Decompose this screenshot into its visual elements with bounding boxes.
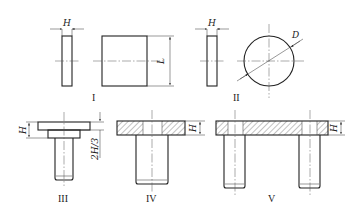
dim-h-label-iii: H (18, 126, 28, 135)
dim-h-label-v: H (329, 124, 339, 133)
view-iii: H 2H/3 III (18, 112, 104, 204)
view-label-iv: IV (146, 193, 157, 204)
view-label-v: V (268, 193, 276, 204)
view-label-iii: III (58, 193, 68, 204)
dim-h-label-iv: H (188, 124, 198, 133)
dim-h-label-ii: H (207, 18, 216, 28)
view-label-i: I (92, 92, 95, 103)
dim-2h3-label: 2H/3 (90, 137, 100, 161)
dim-h-label: H (62, 18, 71, 28)
view-iv: H IV (117, 110, 205, 204)
view-label-ii: II (233, 92, 240, 103)
view-ii-side: H (195, 18, 229, 86)
view-i-side: H (50, 18, 84, 86)
view-ii: H D II (195, 18, 304, 103)
dim-d-label: D (291, 30, 299, 40)
dim-l-label: L (156, 58, 166, 65)
view-v: H V (216, 110, 345, 204)
view-i-front: L (93, 36, 174, 86)
view-i: H L I (50, 18, 174, 103)
view-ii-front: D (237, 24, 304, 98)
technical-drawing: H L I H D (0, 0, 355, 218)
